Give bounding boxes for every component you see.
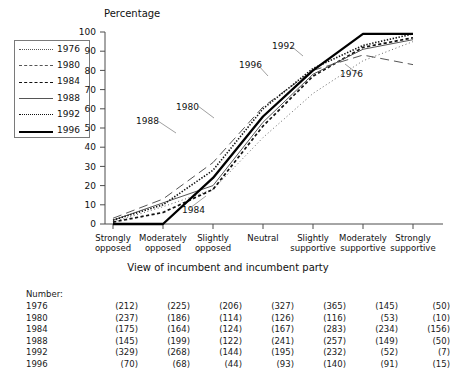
table-cell: (156) xyxy=(398,324,450,336)
y-tick-label: 10 xyxy=(85,200,97,210)
table-cell: (365) xyxy=(294,301,346,313)
table-cell: (268) xyxy=(138,347,190,359)
table-cell: (50) xyxy=(398,301,450,313)
table-cell: (199) xyxy=(138,336,190,348)
table-cell: (68) xyxy=(138,359,190,369)
y-tick-label: 100 xyxy=(79,27,96,37)
table-cell: (257) xyxy=(294,336,346,348)
table-cell: (212) xyxy=(86,301,138,313)
annotation-1996: 1996 xyxy=(239,60,262,70)
y-tick-label: 70 xyxy=(85,85,97,95)
table-row: 1980(237)(186)(114)(126)(116)(53)(10) xyxy=(26,313,450,325)
y-tick-label: 90 xyxy=(85,46,97,56)
table-cell: (145) xyxy=(346,301,398,313)
table-row: 1976(212)(225)(206)(327)(365)(145)(50) xyxy=(26,301,450,313)
table-row: 1992(329)(268)(144)(195)(232)(52)(7) xyxy=(26,347,450,359)
table-cell: (7) xyxy=(398,347,450,359)
y-tick-label: 40 xyxy=(85,142,97,152)
table-cell: (140) xyxy=(294,359,346,369)
table-cell: (149) xyxy=(346,336,398,348)
table-cell: (44) xyxy=(190,359,242,369)
series-line-1988 xyxy=(113,40,413,220)
table-cell: (164) xyxy=(138,324,190,336)
table-cell: (15) xyxy=(398,359,450,369)
table-cell: (232) xyxy=(294,347,346,359)
y-tick-label: 50 xyxy=(85,123,97,133)
table-row-year: 1976 xyxy=(26,301,86,313)
table-cell: (124) xyxy=(190,324,242,336)
x-tick-label: Slightlysupportive xyxy=(290,233,335,253)
table-cell: (175) xyxy=(86,324,138,336)
table-cell: (91) xyxy=(346,359,398,369)
y-tick-label: 80 xyxy=(85,66,97,76)
x-tick-label: Stronglyopposed xyxy=(95,233,131,253)
y-tick-label: 0 xyxy=(90,219,96,229)
table-cell: (241) xyxy=(242,336,294,348)
table-cell: (114) xyxy=(190,313,242,325)
annotation-1976: 1976 xyxy=(340,69,363,79)
y-tick-label: 60 xyxy=(85,104,97,114)
table-row-year: 1980 xyxy=(26,313,86,325)
table-cell: (10) xyxy=(398,313,450,325)
y-tick-label: 20 xyxy=(85,181,97,191)
table-cell: (167) xyxy=(242,324,294,336)
table-row: 1996(70)(68)(44)(93)(140)(91)(15) xyxy=(26,359,450,369)
table-cell: (93) xyxy=(242,359,294,369)
x-tick-label: Moderatelyopposed xyxy=(139,233,187,253)
table-cell: (50) xyxy=(398,336,450,348)
series-line-1996 xyxy=(113,34,413,224)
table-cell: (327) xyxy=(242,301,294,313)
table-cell: (329) xyxy=(86,347,138,359)
x-tick-label: Moderatelysupportive xyxy=(339,233,387,253)
table-cell: (116) xyxy=(294,313,346,325)
chart-figure: Percentage 1976 1980 1984 1988 1992 1996 xyxy=(0,0,456,369)
x-tick-label: Neutral xyxy=(247,233,278,243)
annotation-leader xyxy=(198,106,214,118)
table-row-year: 1988 xyxy=(26,336,86,348)
table-cell: (144) xyxy=(190,347,242,359)
chart-canvas: 0102030405060708090100StronglyopposedMod… xyxy=(0,0,456,262)
table-cell: (126) xyxy=(242,313,294,325)
table-cell: (234) xyxy=(346,324,398,336)
table-cell: (195) xyxy=(242,347,294,359)
number-table-grid: 1976(212)(225)(206)(327)(365)(145)(50)19… xyxy=(26,301,450,369)
annotation-1980: 1980 xyxy=(176,102,199,112)
table-row-year: 1996 xyxy=(26,359,86,369)
table-cell: (225) xyxy=(138,301,190,313)
annotation-1988: 1988 xyxy=(136,116,159,126)
y-tick-label: 30 xyxy=(85,162,97,172)
x-tick-label: Stronglysupportive xyxy=(390,233,435,253)
series-line-1980 xyxy=(113,55,413,218)
table-row-year: 1992 xyxy=(26,347,86,359)
table-cell: (53) xyxy=(346,313,398,325)
table-row: 1988(145)(199)(122)(241)(257)(149)(50) xyxy=(26,336,450,348)
annotation-leader xyxy=(158,121,176,133)
series-line-1976 xyxy=(113,42,413,222)
table-row-year: 1984 xyxy=(26,324,86,336)
annotation-leader xyxy=(258,65,268,76)
table-cell: (206) xyxy=(190,301,242,313)
table-row: 1984(175)(164)(124)(167)(283)(234)(156) xyxy=(26,324,450,336)
table-cell: (122) xyxy=(190,336,242,348)
annotation-1984: 1984 xyxy=(182,205,205,215)
table-cell: (52) xyxy=(346,347,398,359)
number-table-caption: Number: xyxy=(26,289,450,299)
table-cell: (237) xyxy=(86,313,138,325)
x-axis-title: View of incumbent and incumbent party xyxy=(0,262,456,273)
x-tick-label: Slightlyopposed xyxy=(195,233,231,253)
number-table: Number: 1976(212)(225)(206)(327)(365)(14… xyxy=(26,289,450,369)
series-line-1984 xyxy=(113,38,413,222)
table-cell: (283) xyxy=(294,324,346,336)
table-cell: (70) xyxy=(86,359,138,369)
table-cell: (145) xyxy=(86,336,138,348)
table-cell: (186) xyxy=(138,313,190,325)
annotation-leader xyxy=(291,46,303,56)
